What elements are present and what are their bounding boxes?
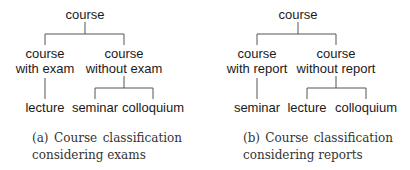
tree-b-child-2: course without report [297,46,376,76]
tree-a-child-2: course without exam [86,46,163,76]
node-label: with report [227,61,288,76]
caption-a: (a) Course classification considering ex… [32,130,182,164]
caption-tag: (b) [243,130,260,147]
caption-line2: considering exams [32,147,182,164]
node-label: course [86,46,163,61]
tree-a-leaf: seminar [72,100,118,115]
tree-a-root: course [65,7,104,22]
tree-b-leaf: colloquium [335,100,397,115]
caption-line2: considering reports [243,147,393,164]
caption-word: Course [265,130,308,147]
caption-b: (b) Course classification considering re… [243,130,393,164]
node-label: course [297,46,376,61]
node-label: without exam [86,61,163,76]
tree-a-leaf: colloquium [122,100,184,115]
tree-a-child-1: course with exam [16,46,75,76]
node-label: course [16,46,75,61]
node-label: course [227,46,288,61]
tree-b-leaf: lecture [287,100,326,115]
caption-word: classification [103,130,182,147]
caption-word: classification [314,130,393,147]
tree-a-leaf: lecture [25,100,64,115]
tree-b-child-1: course with report [227,46,288,76]
caption-tag: (a) [32,130,49,147]
node-label: without report [297,61,376,76]
caption-word: Course [54,130,97,147]
tree-b-root: course [278,7,317,22]
node-label: with exam [16,61,75,76]
tree-b-leaf: seminar [234,100,280,115]
